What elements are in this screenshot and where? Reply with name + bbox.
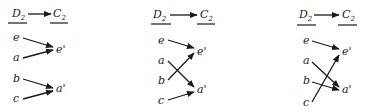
- source-label: D2: [298, 8, 313, 23]
- element-e: e: [303, 34, 310, 47]
- target-label: C2: [342, 8, 355, 23]
- element-a: a: [303, 54, 310, 67]
- arrow-b-to-e-prime: [168, 53, 194, 80]
- panel-header: D2 C2: [8, 7, 68, 23]
- element-e-prime: e': [197, 45, 207, 58]
- homomorphism-diagrams: D2 C2 e a b c e' a' D2 C2 e a b c e' a': [0, 0, 368, 111]
- element-e: e: [158, 34, 165, 47]
- source-label: D2: [11, 7, 26, 22]
- element-c: c: [303, 96, 309, 109]
- panel-1: D2 C2 e a b c e' a': [8, 7, 68, 105]
- arrow-a-to-e-prime: [23, 50, 53, 58]
- element-c: c: [13, 92, 19, 105]
- element-a-prime: a': [56, 82, 66, 95]
- element-a: a: [13, 51, 20, 64]
- panel-2: D2 C2 e a b c e' a': [151, 8, 215, 107]
- arrow-e-to-e-prime: [23, 38, 53, 47]
- source-label: D2: [152, 8, 167, 23]
- target-label: C2: [53, 7, 66, 22]
- element-e-prime: e': [56, 43, 66, 56]
- panel-header: D2 C2: [151, 8, 215, 24]
- arrow-c-to-a-prime: [168, 92, 194, 100]
- arrow-a-to-a-prime: [168, 61, 194, 87]
- element-e: e: [13, 31, 20, 44]
- element-a-prime: a': [342, 83, 352, 96]
- arrow-b-to-a-prime: [23, 79, 53, 88]
- arrow-c-to-a-prime: [23, 91, 53, 99]
- target-label: C2: [200, 8, 213, 23]
- arrow-e-to-e-prime: [168, 40, 194, 48]
- element-a: a: [158, 54, 165, 67]
- element-b: b: [158, 74, 165, 87]
- panel-3: D2 C2 e a b c e' a': [297, 8, 357, 109]
- arrow-e-to-e-prime: [312, 41, 339, 49]
- element-c: c: [158, 94, 164, 107]
- element-a-prime: a': [197, 83, 207, 96]
- arrow-c-to-e-prime: [312, 55, 339, 102]
- element-b: b: [303, 74, 310, 87]
- element-e-prime: e': [342, 45, 352, 58]
- panel-header: D2 C2: [297, 8, 357, 25]
- element-b: b: [13, 72, 20, 85]
